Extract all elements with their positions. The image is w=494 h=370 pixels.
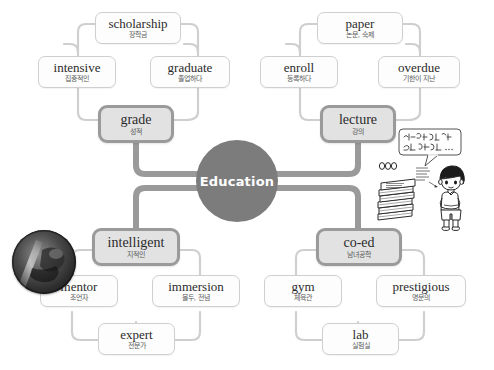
leaf-lab-ko: 실험실 xyxy=(352,343,370,350)
leaf-scholarship-en: scholarship xyxy=(108,17,167,30)
leaf-node-scholarship[interactable]: scholarship 장학금 xyxy=(95,12,181,44)
leaf-node-prestigious[interactable]: prestigious 명문의 xyxy=(376,275,466,307)
leaf-intensive-en: intensive xyxy=(54,61,101,74)
leaf-overdue-en: overdue xyxy=(398,61,440,74)
leaf-node-overdue[interactable]: overdue 기한이 지난 xyxy=(378,56,460,88)
connector-lecture-paper-right xyxy=(403,24,420,52)
connector-intelligent-expert-left xyxy=(72,312,98,340)
leaf-node-paper[interactable]: paper 논문, 숙제 xyxy=(317,12,403,44)
leaf-graduate-en: graduate xyxy=(168,61,213,74)
hub-node-lecture[interactable]: lecture 강의 xyxy=(320,105,396,143)
connector-coed-lab-right xyxy=(399,312,424,340)
connector-coed-lab-left xyxy=(296,312,322,340)
leaf-enroll-ko: 등록하다 xyxy=(287,76,311,83)
connector-grade-scholarship-left xyxy=(78,24,95,52)
hub-coed-en: co-ed xyxy=(343,236,374,250)
connector-lecture-paper-left xyxy=(300,24,317,52)
hub-coed-ko: 남녀공학 xyxy=(347,252,371,259)
photo-circle-image xyxy=(12,230,76,294)
connector-grade-scholarship-right xyxy=(181,24,198,52)
leaf-expert-en: expert xyxy=(120,328,152,341)
leaf-immersion-en: immersion xyxy=(168,280,224,293)
connector-intelligent-expert-right xyxy=(175,312,200,340)
leaf-node-immersion[interactable]: immersion 몰두, 전념 xyxy=(152,275,240,307)
leaf-intensive-ko: 집중적인 xyxy=(65,76,89,83)
leaf-enroll-en: enroll xyxy=(284,61,314,74)
photo-circle-graphic xyxy=(12,230,76,294)
leaf-node-graduate[interactable]: graduate 졸업하다 xyxy=(150,56,230,88)
leaf-node-expert[interactable]: expert 전문가 xyxy=(98,323,175,355)
center-node-label: Education xyxy=(200,174,275,189)
hub-intelligent-ko: 지적인 xyxy=(127,252,145,259)
leaf-mentor-ko: 조언자 xyxy=(70,295,88,302)
hub-grade-en: grade xyxy=(120,113,151,127)
connector-center-lecture xyxy=(276,143,358,174)
speech-bubble-graphic xyxy=(398,128,470,168)
leaf-immersion-ko: 몰두, 전념 xyxy=(182,295,210,302)
leaf-node-enroll[interactable]: enroll 등록하다 xyxy=(260,56,338,88)
leaf-node-lab[interactable]: lab 실험실 xyxy=(322,323,399,355)
center-node-education[interactable]: Education xyxy=(196,140,278,222)
leaf-node-gym[interactable]: gym 체육관 xyxy=(264,275,342,307)
connector-center-coed xyxy=(276,188,358,228)
leaf-paper-en: paper xyxy=(346,17,375,30)
mindmap-canvas: Education grade 성적 lecture 강의 intelligen… xyxy=(0,0,494,370)
hub-lecture-ko: 강의 xyxy=(352,129,364,136)
leaf-expert-ko: 전문가 xyxy=(128,343,146,350)
hub-node-intelligent[interactable]: intelligent 지적인 xyxy=(92,228,180,266)
leaf-gym-en: gym xyxy=(291,280,314,293)
hub-lecture-en: lecture xyxy=(339,113,377,127)
leaf-overdue-ko: 기한이 지난 xyxy=(403,76,435,83)
leaf-gym-ko: 체육관 xyxy=(294,295,312,302)
hub-node-grade[interactable]: grade 성적 xyxy=(98,105,174,143)
leaf-prestigious-en: prestigious xyxy=(392,280,449,293)
hub-grade-ko: 성적 xyxy=(130,129,142,136)
leaf-graduate-ko: 졸업하다 xyxy=(178,76,202,83)
hub-intelligent-en: intelligent xyxy=(108,236,165,250)
leaf-node-intensive[interactable]: intensive 집중적인 xyxy=(38,56,116,88)
cartoon-illustration: 학생과 책더미 삽화 xyxy=(372,160,480,234)
leaf-scholarship-ko: 장학금 xyxy=(129,32,147,39)
cartoon-graphic xyxy=(372,160,480,234)
connector-lecture-overdue-stub xyxy=(406,44,420,52)
connector-grade-graduate-stub xyxy=(184,44,198,52)
leaf-lab-en: lab xyxy=(353,328,369,341)
leaf-paper-ko: 논문, 숙제 xyxy=(346,32,374,39)
leaf-prestigious-ko: 명문의 xyxy=(412,295,430,302)
speech-bubble: 제대로 치구가 했었으면… xyxy=(398,128,470,168)
